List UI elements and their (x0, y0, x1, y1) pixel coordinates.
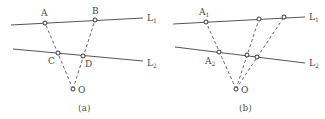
point-c (56, 51, 60, 55)
label-o-b: O (241, 85, 248, 95)
label-l2-b: L2 (309, 58, 319, 69)
label-c: C (48, 56, 55, 66)
label-o-a: O (78, 85, 85, 95)
point-a2 (217, 50, 221, 54)
ray-o-p2 (236, 17, 284, 89)
projection-diagram: A B C D O L1 L2 (a) A1 A2 O L1 L2 (b) (0, 0, 325, 119)
line-l2-b (175, 47, 305, 63)
point-o-a (71, 87, 75, 91)
label-a1: A1 (198, 7, 209, 18)
label-a: A (40, 8, 48, 18)
label-a2: A2 (204, 56, 216, 67)
point-a (43, 21, 47, 25)
panel-a: A B C D O L1 L2 (a) (11, 6, 157, 113)
panel-b: A1 A2 O L1 L2 (b) (173, 7, 319, 113)
label-d: D (85, 59, 92, 69)
label-l1-b: L1 (309, 12, 319, 23)
point-l2-c (255, 55, 259, 59)
line-l1-a (11, 18, 143, 25)
point-a1 (204, 20, 208, 24)
point-l2-b (245, 53, 249, 57)
point-o-b (234, 87, 238, 91)
point-l1-c (282, 15, 286, 19)
caption-b: (b) (239, 103, 252, 113)
caption-a: (a) (78, 103, 90, 113)
line-l2-a (13, 49, 143, 61)
point-d (81, 54, 85, 58)
point-l1-b (257, 17, 261, 21)
label-l2-a: L2 (147, 58, 157, 69)
label-l1-a: L1 (147, 13, 157, 24)
label-b: B (92, 6, 99, 16)
point-b (93, 18, 97, 22)
